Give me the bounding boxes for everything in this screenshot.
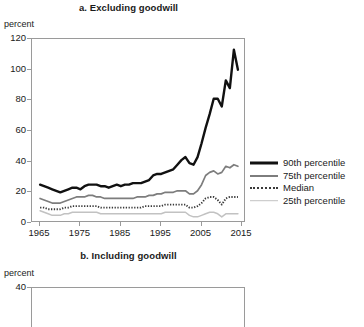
legend-item-median: Median bbox=[250, 183, 345, 193]
panel-a-unit-label: percent bbox=[4, 19, 34, 29]
y-tick-mark-100 bbox=[27, 69, 31, 70]
y-tick-mark-40 bbox=[27, 161, 31, 162]
legend-label-median: Median bbox=[283, 183, 314, 193]
line-swatch-icon-75th bbox=[250, 171, 278, 181]
y-tick-label-80: 80 bbox=[0, 95, 26, 105]
x-tick-label-1965: 1965 bbox=[28, 228, 49, 238]
y-tick-mark-80 bbox=[27, 99, 31, 100]
panel-b-unit-label: percent bbox=[4, 268, 34, 278]
panel-b-title: b. Including goodwill bbox=[6, 250, 251, 261]
x-tick-label-1985: 1985 bbox=[109, 228, 130, 238]
y-tick-label-100: 100 bbox=[0, 64, 26, 74]
line-swatch-icon-25th bbox=[250, 196, 278, 206]
series-line-25th-percentile bbox=[40, 211, 238, 217]
y-tick-label-0: 0 bbox=[0, 217, 26, 227]
chart-legend: 90th percentile 75th percentile Median 2… bbox=[250, 158, 345, 206]
x-tick-mark-1975 bbox=[79, 222, 80, 226]
legend-label-25th: 25th percentile bbox=[283, 196, 345, 206]
y-tick-mark-120 bbox=[27, 38, 31, 39]
line-swatch-icon-90th bbox=[250, 158, 278, 168]
x-tick-mark-2015 bbox=[241, 222, 242, 226]
line-swatch-icon-median bbox=[250, 183, 278, 193]
y-tick-label-20: 20 bbox=[0, 187, 26, 197]
legend-item-90th-percentile: 90th percentile bbox=[250, 158, 345, 168]
y-tick-mark-20 bbox=[27, 191, 31, 192]
series-line-90th-percentile bbox=[40, 50, 238, 193]
panel-b-y-tick-label-40: 40 bbox=[0, 282, 26, 292]
x-tick-label-2005: 2005 bbox=[190, 228, 211, 238]
x-tick-mark-1995 bbox=[160, 222, 161, 226]
y-tick-label-120: 120 bbox=[0, 33, 26, 43]
legend-label-90th: 90th percentile bbox=[283, 158, 345, 168]
y-tick-label-40: 40 bbox=[0, 156, 26, 166]
panel-a-series-lines bbox=[32, 39, 246, 223]
x-tick-mark-1985 bbox=[120, 222, 121, 226]
panel-b-plot-area bbox=[31, 287, 245, 327]
legend-label-75th: 75th percentile bbox=[283, 171, 345, 181]
panel-a-title: a. Excluding goodwill bbox=[6, 2, 251, 13]
x-tick-label-2015: 2015 bbox=[230, 228, 251, 238]
y-tick-mark-0 bbox=[27, 222, 31, 223]
panel-b-y-tick-mark-40 bbox=[27, 287, 31, 288]
x-tick-mark-2005 bbox=[201, 222, 202, 226]
panel-a-plot-area bbox=[31, 38, 245, 222]
legend-item-25th-percentile: 25th percentile bbox=[250, 196, 345, 206]
y-tick-label-60: 60 bbox=[0, 125, 26, 135]
legend-item-75th-percentile: 75th percentile bbox=[250, 171, 345, 181]
x-tick-label-1995: 1995 bbox=[150, 228, 171, 238]
x-tick-mark-1965 bbox=[39, 222, 40, 226]
x-tick-label-1975: 1975 bbox=[69, 228, 90, 238]
y-tick-mark-60 bbox=[27, 130, 31, 131]
